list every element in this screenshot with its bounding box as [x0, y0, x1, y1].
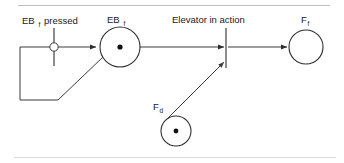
label-place-f-d-subscript: d — [160, 107, 164, 114]
label-place-f-f-base: F — [301, 14, 307, 25]
token-eb-f — [117, 44, 122, 49]
label-eb-pressed-subscript: f — [39, 21, 41, 28]
label-place-f-d-base: F — [153, 101, 159, 112]
token-f-d — [174, 129, 179, 134]
label-place-f-f-subscript: f — [308, 20, 310, 27]
label-eb-pressed-rest: pressed — [44, 15, 78, 26]
label-eb-pressed-base: EB — [22, 15, 35, 26]
condition-marker-icon[interactable] — [50, 43, 58, 51]
label-elevator-in-action: Elevator in action — [172, 14, 245, 25]
arc-feedback-loop — [20, 47, 103, 100]
petri-net-diagram: EB f pressed EB f Elevator in action F f… — [0, 0, 344, 163]
diagram-canvas: EB f pressed EB f Elevator in action F f… — [0, 0, 344, 163]
arc-fd-to-transition — [166, 62, 224, 120]
label-place-eb-f-subscript: f — [124, 20, 126, 27]
place-f-f[interactable] — [289, 30, 323, 64]
label-place-eb-f-base: EB — [107, 14, 120, 25]
